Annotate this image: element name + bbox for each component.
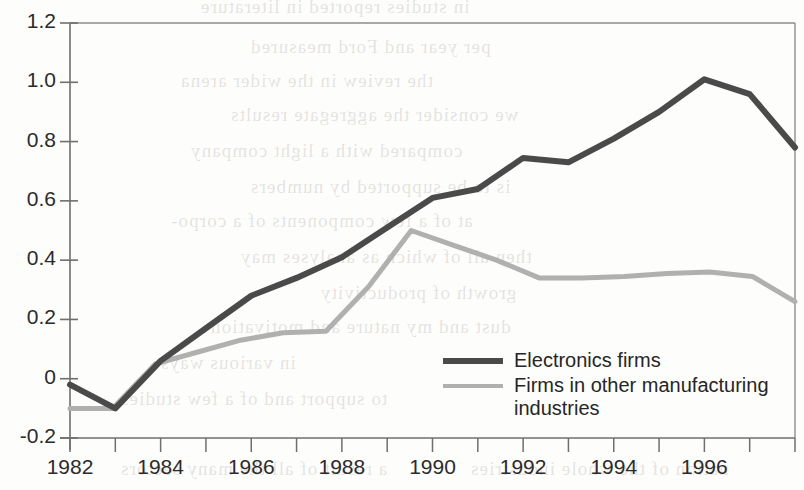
chart-figure: in studies reported in literature per ye… bbox=[0, 0, 804, 490]
x-tick-marks bbox=[70, 438, 795, 452]
legend-label: Firms in other manufacturing industries bbox=[514, 374, 804, 420]
legend-item-other-manufacturing: Firms in other manufacturing industries bbox=[443, 374, 804, 420]
y-tick-label: 1.0 bbox=[0, 68, 56, 92]
x-tick-label: 1990 bbox=[393, 455, 473, 479]
x-tick-label: 1984 bbox=[121, 455, 201, 479]
x-tick-label: 1996 bbox=[664, 455, 744, 479]
x-tick-label: 1986 bbox=[211, 455, 291, 479]
legend-item-electronics-firms: Electronics firms bbox=[443, 349, 804, 372]
x-tick-label: 1994 bbox=[574, 455, 654, 479]
x-tick-label: 1992 bbox=[483, 455, 563, 479]
y-tick-marks bbox=[60, 23, 78, 438]
x-tick-label: 1982 bbox=[30, 455, 110, 479]
y-tick-label: -0.2 bbox=[0, 424, 56, 448]
y-tick-label: 0.4 bbox=[0, 246, 56, 270]
x-tick-label: 1988 bbox=[302, 455, 382, 479]
y-tick-label: 0.8 bbox=[0, 128, 56, 152]
legend-color-swatch bbox=[443, 358, 503, 364]
legend-color-swatch bbox=[443, 384, 503, 388]
legend-label: Electronics firms bbox=[514, 349, 661, 372]
chart-legend: Electronics firms Firms in other manufac… bbox=[443, 349, 804, 422]
y-tick-label: 0.2 bbox=[0, 305, 56, 329]
y-tick-label: 0.6 bbox=[0, 187, 56, 211]
y-tick-label: 0 bbox=[0, 365, 56, 389]
y-tick-label: 1.2 bbox=[0, 9, 56, 33]
